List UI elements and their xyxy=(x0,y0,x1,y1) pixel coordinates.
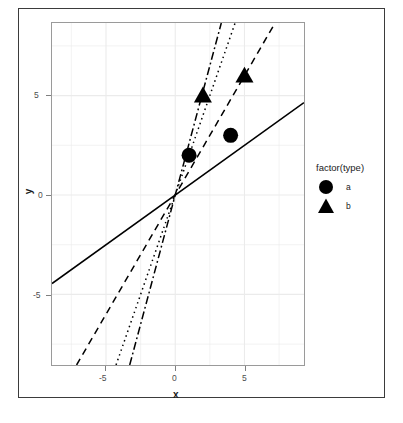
line-solid xyxy=(52,103,304,284)
fit-lines-group xyxy=(52,23,304,365)
y-tick-mark-0 xyxy=(46,195,51,196)
data-points-group xyxy=(182,67,254,163)
legend-key-circle-icon xyxy=(316,177,336,196)
plot-area: 5 0 -5 y -5 0 5 x factor(type) a xyxy=(0,0,403,423)
legend-label-a: a xyxy=(346,182,351,192)
chart-canvas xyxy=(52,23,304,365)
legend-item-a[interactable]: a xyxy=(316,177,392,196)
legend-label-b: b xyxy=(346,201,351,211)
y-tick-mark-5 xyxy=(46,95,51,96)
y-axis-title: y xyxy=(23,189,34,195)
data-point-triangle xyxy=(235,67,253,83)
data-point-circle xyxy=(223,128,238,143)
legend-title: factor(type) xyxy=(316,162,392,173)
legend: factor(type) a b xyxy=(316,162,392,215)
x-tick-label-minus-5: -5 xyxy=(99,373,107,383)
y-tick-label-minus-5: -5 xyxy=(33,290,41,300)
y-tick-label-0: 0 xyxy=(38,190,43,200)
data-point-circle xyxy=(182,148,197,163)
chart-panel xyxy=(51,22,305,366)
x-tick-label-5: 5 xyxy=(242,373,247,383)
legend-item-b[interactable]: b xyxy=(316,196,392,215)
figure-root: 5 0 -5 y -5 0 5 x factor(type) a xyxy=(0,0,403,423)
legend-key-triangle-icon xyxy=(316,196,336,215)
gridlines-group xyxy=(52,23,304,365)
x-tick-mark-0 xyxy=(175,366,176,371)
y-tick-mark-minus-5 xyxy=(46,295,51,296)
x-tick-mark-minus-5 xyxy=(105,366,106,371)
x-axis-title: x xyxy=(173,389,179,400)
x-tick-label-0: 0 xyxy=(172,373,177,383)
data-point-triangle xyxy=(194,87,212,103)
x-tick-mark-5 xyxy=(245,366,246,371)
y-tick-label-5: 5 xyxy=(34,90,39,100)
